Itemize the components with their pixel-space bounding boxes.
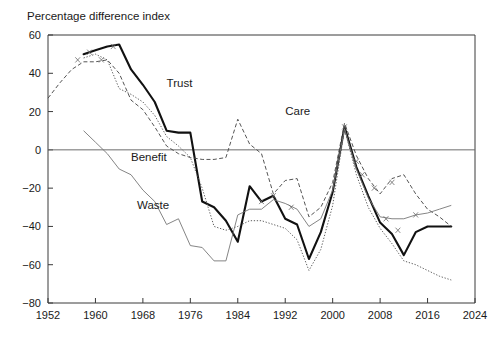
x-tick-label: 1960 (83, 309, 107, 321)
plot-frame (48, 35, 475, 303)
series-line-care (48, 60, 451, 227)
series-marker-glyph (99, 57, 104, 62)
x-axis-ticks: 1952196019681976198419922000200820162024 (36, 298, 487, 321)
y-axis-title-group: Percentage difference index (27, 10, 170, 22)
series-marker-glyph (384, 216, 389, 221)
series-annotation-labels: TrustCareBenefitWaste (131, 77, 310, 212)
y-tick-label: 0 (35, 144, 41, 156)
series-marker-glyph (396, 228, 401, 233)
x-tick-label: 2008 (368, 309, 392, 321)
x-tick-label: 2024 (463, 309, 487, 321)
y-tick-label: −60 (22, 259, 41, 271)
x-tick-label: 1992 (273, 309, 297, 321)
x-tick-label: 2000 (320, 309, 344, 321)
plot-box-border (48, 35, 475, 303)
annotation-label-benefit: Benefit (131, 151, 168, 163)
y-axis-title: Percentage difference index (27, 10, 170, 22)
y-tick-label: 60 (29, 29, 41, 41)
y-tick-label: −80 (22, 297, 41, 309)
y-tick-label: −20 (22, 182, 41, 194)
annotation-label-care: Care (285, 105, 310, 117)
y-tick-label: 20 (29, 106, 41, 118)
annotation-label-waste: Waste (137, 199, 169, 211)
x-tick-label: 1984 (226, 309, 250, 321)
percentage-difference-index-line-chart: Percentage difference index −80−60−40−20… (0, 0, 490, 339)
series-line-benefit (84, 54, 452, 280)
series-marker-glyph (390, 180, 395, 185)
chart-container: Percentage difference index −80−60−40−20… (0, 0, 490, 339)
x-tick-label: 1968 (131, 309, 155, 321)
data-series-group (48, 45, 451, 280)
series-marker-glyph (75, 57, 80, 62)
y-tick-label: −40 (22, 220, 41, 232)
annotation-label-trust: Trust (167, 77, 194, 89)
x-tick-label: 1976 (178, 309, 202, 321)
x-tick-label: 2016 (415, 309, 439, 321)
y-tick-label: 40 (29, 67, 41, 79)
x-tick-label: 1952 (36, 309, 60, 321)
